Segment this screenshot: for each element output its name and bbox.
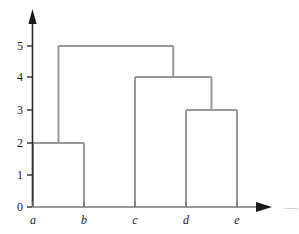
dendrogram-plot-canvas: 5 4 3 2 1 0 a b c d [0,0,298,234]
leaf-label-d: d [183,213,190,227]
tick-label-4: 4 [17,70,23,84]
tick-label-1: 1 [17,168,23,182]
tick-label-0: 0 [17,200,23,214]
tick-label-2: 2 [17,136,23,150]
leaf-label-e: e [234,213,240,227]
leaf-label-b: b [81,213,87,227]
dendrogram-figure: 5 4 3 2 1 0 a b c d [0,0,298,234]
leaf-label-c: c [132,213,138,227]
tick-label-5: 5 [17,39,23,53]
tick-label-3: 3 [17,103,23,117]
leaf-label-a: a [30,213,36,227]
edge-artifact-mark: ⸺ [284,203,299,213]
plot-background [0,0,298,234]
